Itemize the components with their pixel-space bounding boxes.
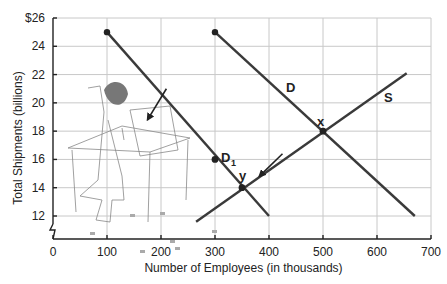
- label-d1: D: [221, 150, 230, 165]
- line-s: [196, 73, 407, 222]
- label-x: x: [317, 114, 325, 129]
- supply-demand-chart: 010020030040050060070012141618202224$26D…: [0, 0, 447, 284]
- y-tick-label: $26: [25, 11, 45, 25]
- y-tick-label: 20: [32, 96, 46, 110]
- shift-arrow: [148, 89, 167, 120]
- y-tick-label: 12: [32, 209, 46, 223]
- y-tick-label: 18: [32, 124, 46, 138]
- label-y: y: [239, 168, 247, 183]
- scattered-item: [212, 230, 217, 233]
- x-tick-label: 600: [367, 245, 387, 259]
- scattered-item: [90, 232, 95, 235]
- scattered-item: [140, 250, 145, 253]
- table-top: [68, 126, 190, 152]
- x-tick-label: 400: [259, 245, 279, 259]
- start-dot-d: [212, 29, 218, 35]
- x-tick-label: 100: [97, 245, 117, 259]
- series-lines: [104, 29, 415, 222]
- plot-area: 010020030040050060070012141618202224$26D…: [0, 0, 447, 284]
- y-tick-label: 14: [32, 181, 46, 195]
- scattered-item: [170, 240, 175, 243]
- gridlines: [53, 18, 431, 239]
- label-d: D: [286, 80, 295, 95]
- point-y: [239, 184, 246, 191]
- start-dot-d1: [104, 29, 110, 35]
- scattered-item: [130, 214, 135, 217]
- y-tick-label: 24: [32, 39, 46, 53]
- x-tick-label: 200: [151, 245, 171, 259]
- label-d1-sub: 1: [231, 158, 236, 168]
- table-legs: [72, 128, 188, 222]
- scattered-item: [175, 247, 180, 250]
- point-d1: [212, 156, 219, 163]
- y-tick-label: 16: [32, 152, 46, 166]
- worker-body: [80, 86, 124, 222]
- x-axis-label: Number of Employees (in thousands): [0, 261, 447, 275]
- x-tick-label: 300: [205, 245, 225, 259]
- label-s: S: [384, 90, 393, 105]
- x-tick-label: 700: [421, 245, 441, 259]
- scattered-item: [160, 212, 165, 215]
- shift-arrow: [259, 154, 282, 177]
- y-tick-label: 22: [32, 68, 46, 82]
- worker-illustration: [68, 82, 217, 253]
- x-tick-label: 0: [50, 245, 57, 259]
- y-axis-label: Total Shipments (billions): [11, 58, 25, 218]
- x-tick-label: 500: [313, 245, 333, 259]
- worker-hair: [104, 82, 128, 105]
